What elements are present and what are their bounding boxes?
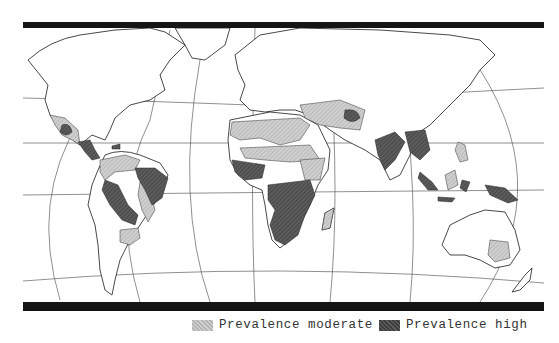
north-america <box>28 28 185 145</box>
australia <box>442 210 520 268</box>
legend-label-moderate: Prevalence moderate <box>219 318 373 332</box>
meridian-line <box>49 120 80 300</box>
bottom-border-bar <box>23 302 544 311</box>
region-central-south-africa <box>268 180 315 245</box>
region-new-guinea <box>485 185 518 203</box>
world-map <box>0 0 559 343</box>
region-sulawesi <box>460 180 470 192</box>
region-borneo <box>445 170 458 190</box>
region-philippines <box>455 142 468 162</box>
region-indonesia-sumatra <box>418 172 438 190</box>
legend-label-high: Prevalence high <box>406 318 528 332</box>
top-border-bar <box>23 22 544 28</box>
legend-swatch-moderate <box>192 320 213 331</box>
new-zealand <box>512 268 532 292</box>
region-indonesia-java <box>438 197 455 202</box>
region-caribbean <box>112 144 120 149</box>
legend-swatch-high <box>379 320 400 331</box>
legend-item-moderate: Prevalence moderate <box>192 318 373 332</box>
region-paraguay-argentina <box>120 228 140 245</box>
meridian-line <box>190 28 210 302</box>
legend-item-high: Prevalence high <box>379 318 528 332</box>
